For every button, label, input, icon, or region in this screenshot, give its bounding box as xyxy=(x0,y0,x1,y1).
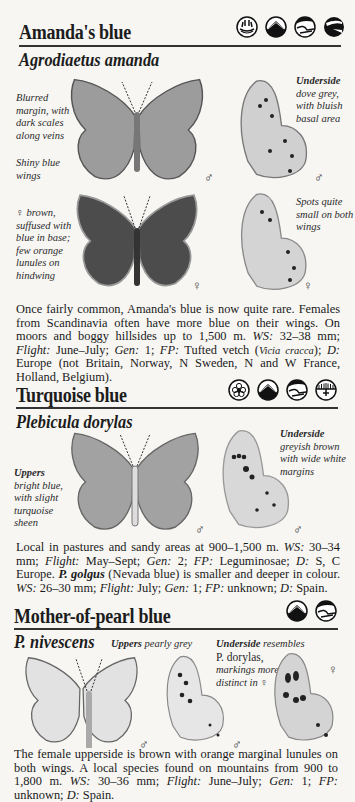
butterfly-male-underside xyxy=(230,76,310,184)
butterfly-turquoise-underside xyxy=(212,425,292,535)
butterfly-female-underside xyxy=(230,190,310,295)
sex-female-3: ♀ xyxy=(328,662,338,678)
mountain-icon xyxy=(265,16,287,38)
sex-male-4: ♂ xyxy=(293,522,303,538)
habitat-icons xyxy=(236,16,345,38)
butterfly-turquoise-upperside xyxy=(60,428,210,536)
hillside-icon xyxy=(315,600,337,622)
underside-text-3: resembles xyxy=(260,638,304,649)
uppers-label: Uppers xyxy=(14,467,45,478)
latin-name: Agrodiaetus amanda xyxy=(19,49,159,71)
caption-uppers-3: Uppers pearly grey xyxy=(111,638,221,651)
description-amandas-blue: Once fairly common, Amanda's blue is now… xyxy=(16,303,340,385)
butterfly-pearl-male-underside xyxy=(152,653,232,745)
habitat-icons-3 xyxy=(286,600,337,622)
description-mother-of-pearl-blue: The female upperside is brown with orang… xyxy=(14,748,338,802)
mountain-icon xyxy=(286,600,308,622)
title-rule xyxy=(19,45,341,47)
uppers-label-3: Uppers xyxy=(111,638,142,649)
flower-meadow-icon xyxy=(228,379,250,401)
hillside-icon xyxy=(286,379,308,401)
habitat-icons-2 xyxy=(228,379,337,401)
description-turquoise-blue: Local in pastures and sandy areas at 900… xyxy=(16,541,340,595)
sex-female: ♀ xyxy=(192,278,202,294)
butterfly-male-upperside xyxy=(62,74,212,186)
sex-male: ♂ xyxy=(204,170,214,186)
uppers-text: bright blue, with slight turquoise sheen xyxy=(14,480,63,529)
grassland-icon xyxy=(315,379,337,401)
hillside-icon xyxy=(294,16,316,38)
sex-male-2: ♂ xyxy=(314,170,324,186)
butterfly-female-upperside xyxy=(62,190,212,292)
uppers-text-3: pearly grey xyxy=(142,638,192,649)
mountain-icon xyxy=(257,379,279,401)
sun-coast-icon xyxy=(236,16,258,38)
species-title-amandas-blue: Amanda's blue xyxy=(19,21,131,44)
underside-label-3: Underside xyxy=(216,638,260,649)
title-rule-2 xyxy=(16,407,338,409)
title-rule-3 xyxy=(14,628,338,630)
sex-male-3: ♂ xyxy=(195,522,205,538)
latin-name-3: P. nivescens xyxy=(14,631,94,653)
slope-icon xyxy=(323,16,345,38)
butterfly-pearl-upperside xyxy=(14,653,149,748)
species-title-mother-of-pearl-blue: Mother-of-pearl blue xyxy=(14,605,170,628)
species-title-turquoise-blue: Turquoise blue xyxy=(16,384,127,407)
sex-female-2: ♀ xyxy=(303,278,313,294)
